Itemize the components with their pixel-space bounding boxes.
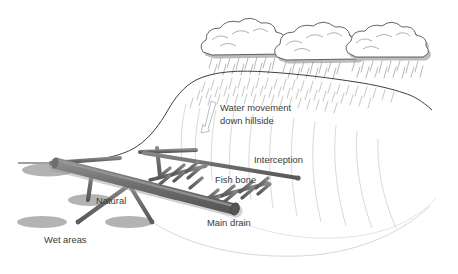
label-water-movement-line1: Water movement [220,102,291,113]
fishbone-rib [190,178,202,188]
label-interception: Interception [254,154,303,165]
wet-area-blob [105,216,153,228]
drainage-diagram: Water movement down hillside Interceptio… [0,0,458,274]
label-water-movement-line2: down hillside [220,115,274,126]
interception-pipe-end [295,175,300,180]
label-main-drain: Main drain [207,217,251,228]
label-natural: Natural [96,195,126,206]
cloud-group [201,18,431,63]
down-arrow-icon [201,101,216,133]
label-fish-bone: Fish bone [215,174,256,185]
diagram-canvas: Water movement down hillside Interceptio… [0,0,458,274]
wet-area-blob [17,216,67,228]
label-wet-areas: Wet areas [44,234,87,245]
cloud-icon-3 [346,22,431,60]
slope-toe-line [152,206,430,256]
